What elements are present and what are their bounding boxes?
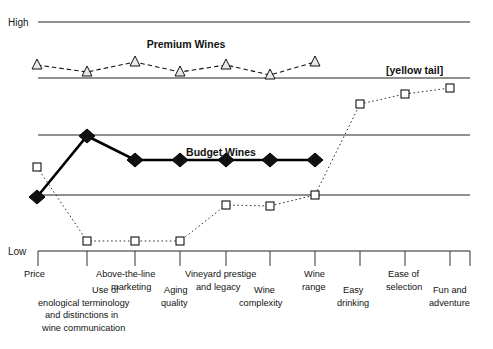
gridlines (38, 22, 470, 195)
premium-point (221, 59, 231, 69)
budget-point (262, 153, 278, 167)
budget-point (127, 153, 143, 167)
premium-point (130, 56, 140, 66)
budget-line (37, 136, 315, 197)
cat-label-fun-and-adventure: Fun and adventure (429, 285, 470, 308)
yellowtail-point (33, 163, 41, 171)
yellowtail-point (176, 237, 184, 245)
series-budget (29, 129, 323, 204)
premium-point (310, 56, 320, 66)
yellowtail-point (83, 237, 91, 245)
strategy-canvas-chart: High Low (0, 0, 493, 349)
yellowtail-line (37, 88, 450, 241)
cat-label-wine-range: Wine range (302, 269, 328, 292)
premium-series-label: Premium Wines (147, 38, 226, 50)
chart-svg: High Low (0, 0, 493, 349)
x-axis (38, 251, 470, 266)
yellowtail-point (356, 100, 364, 108)
category-labels: Price Use of enological terminology and … (24, 269, 470, 333)
yellowtail-point (311, 191, 319, 199)
yellowtail-point (266, 202, 274, 210)
premium-point (32, 59, 42, 69)
series-yellowtail (33, 84, 454, 245)
yellowtail-point (131, 237, 139, 245)
cat-label-wine-complexity: Wine complexity (239, 285, 283, 308)
budget-point (307, 153, 323, 167)
yellowtail-series-label: [yellow tail] (386, 64, 443, 76)
yellowtail-point (401, 90, 409, 98)
budget-series-label: Budget Wines (186, 146, 256, 158)
cat-label-price: Price (24, 269, 45, 279)
yellowtail-point (222, 201, 230, 209)
cat-label-ease-of-selection: Ease of selection (386, 269, 422, 292)
yellowtail-point (446, 84, 454, 92)
cat-label-enological-terminology: Use of enological terminology and distin… (38, 285, 132, 333)
premium-point (175, 66, 185, 76)
cat-label-easy-drinking: Easy drinking (337, 285, 369, 308)
series-premium (32, 56, 320, 79)
cat-label-vineyard-prestige: Vineyard prestige and legacy (185, 269, 259, 292)
axis-label-low: Low (8, 246, 27, 257)
axis-label-high: High (8, 17, 29, 28)
cat-label-aging-quality: Aging quality (161, 285, 190, 308)
